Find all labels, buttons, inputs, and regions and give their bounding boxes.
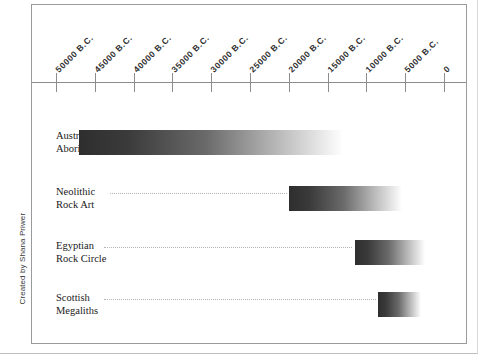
timeline-bar[interactable] [355, 240, 425, 265]
timeline-row: ScottishMegaliths [0, 292, 479, 338]
axis-tick [134, 73, 135, 92]
axis-tick [172, 73, 173, 92]
timeline-row: NeolithicRock Art [0, 186, 479, 232]
axis-tick [56, 73, 57, 92]
timeline-row: AustralianAborigines [0, 130, 479, 176]
timeline-bar[interactable] [79, 130, 343, 155]
timeline-row-label: EgyptianRock Circle [56, 240, 106, 265]
leader-dots [104, 247, 352, 249]
axis-tick [289, 73, 290, 92]
axis-tick [211, 73, 212, 92]
timeline-bar[interactable] [289, 186, 402, 211]
timeline-row-label: NeolithicRock Art [56, 186, 95, 211]
axis-tick [444, 73, 445, 92]
row-label-line-1: Egyptian [56, 240, 106, 253]
timeline-chart-page: Created by Shana Priwer 50000 B.C.45000 … [0, 0, 479, 355]
timeline-bar[interactable] [378, 292, 421, 317]
row-label-line-2: Rock Art [56, 199, 95, 212]
axis-tick [366, 73, 367, 92]
timeline-row-label: ScottishMegaliths [56, 292, 98, 317]
axis-tick [328, 73, 329, 92]
axis-tick [405, 73, 406, 92]
row-label-line-2: Rock Circle [56, 253, 106, 266]
axis-tick [250, 73, 251, 92]
leader-dots [104, 299, 376, 301]
time-axis-line [32, 82, 466, 83]
axis-tick [95, 73, 96, 92]
timeline-row: EgyptianRock Circle [0, 240, 479, 286]
row-label-line-1: Neolithic [56, 186, 95, 199]
row-label-line-2: Megaliths [56, 305, 98, 318]
leader-dots [110, 193, 287, 195]
row-label-line-1: Scottish [56, 292, 98, 305]
